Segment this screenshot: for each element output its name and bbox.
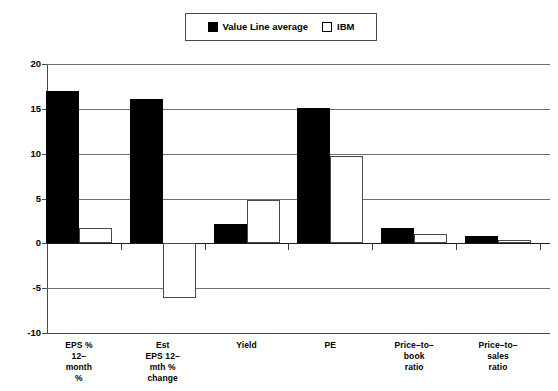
y-tick-mark [42, 64, 47, 65]
x-tick-mark [456, 243, 457, 250]
bar [465, 236, 498, 243]
chart-legend: Value Line average IBM [185, 13, 377, 41]
open-square-icon [322, 22, 332, 32]
y-tick-label: -10 [27, 328, 41, 338]
legend-label-ibm: IBM [337, 22, 354, 32]
x-tick-mark [205, 243, 206, 250]
y-tick-label: -5 [33, 283, 41, 293]
y-tick-label: 15 [30, 104, 41, 114]
x-axis-label: EstEPS 12–mth %change [118, 340, 208, 384]
x-axis-label: Price–to–bookratio [369, 340, 459, 373]
x-tick-mark [121, 243, 122, 250]
filled-square-icon [208, 22, 218, 32]
gridline--5 [47, 288, 550, 289]
y-tick-label: 5 [36, 194, 41, 204]
bar [247, 200, 280, 243]
plot-area: 20151050-5-10 [47, 64, 550, 333]
y-tick-label: 10 [30, 149, 41, 159]
chart-screenshot: Value Line average IBM 20151050-5-10 EPS… [0, 0, 558, 391]
bar [330, 156, 363, 243]
y-tick-mark [42, 288, 47, 289]
bar [414, 234, 447, 243]
gridline-20 [47, 64, 550, 65]
bar [498, 240, 531, 244]
legend-entry-ibm: IBM [322, 22, 354, 32]
bar [79, 228, 112, 243]
x-axis-label: Price–to–salesratio [453, 340, 543, 373]
x-axis-label: EPS %12–month% [34, 340, 124, 384]
gridline-0 [47, 243, 550, 244]
bar [46, 91, 79, 243]
y-tick-label: 20 [30, 59, 41, 69]
x-axis-category-labels: EPS %12–month%EstEPS 12–mth %changeYield… [47, 340, 550, 388]
legend-label-value-line: Value Line average [223, 22, 309, 32]
y-tick-mark [42, 243, 47, 244]
bar [297, 108, 330, 243]
x-tick-mark [288, 243, 289, 250]
gridline--10 [47, 333, 550, 334]
x-axis-label: PE [285, 340, 375, 351]
bar [163, 243, 196, 298]
bar [130, 99, 163, 243]
bar [214, 224, 247, 244]
y-tick-label: 0 [36, 239, 41, 249]
legend-entry-value-line: Value Line average [208, 22, 309, 32]
x-tick-mark [372, 243, 373, 250]
x-axis-label: Yield [202, 340, 292, 351]
y-tick-mark [42, 333, 47, 334]
x-tick-mark [540, 243, 541, 250]
bar [381, 228, 414, 243]
